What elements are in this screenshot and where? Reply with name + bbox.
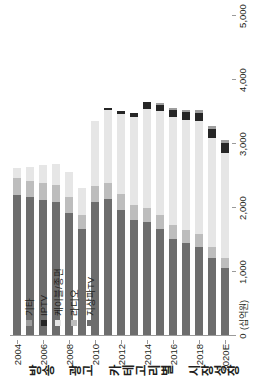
legend-swatch-icon <box>26 320 32 326</box>
bar-segment <box>26 167 34 180</box>
bar-row <box>156 103 164 335</box>
bar-segment <box>130 117 138 205</box>
legend-item: IPTV <box>38 268 49 326</box>
bar-row <box>182 110 190 335</box>
bar-segment <box>195 234 203 247</box>
value-axis: (십억원) 01,0002,0003,0004,0005,000 <box>232 16 262 336</box>
bar-segment <box>130 113 138 117</box>
legend-label: 라디오 <box>67 289 81 316</box>
year-tick-label: 2020E <box>220 344 231 371</box>
value-tick-label: 1,000 <box>237 260 248 284</box>
bar-row <box>13 168 21 335</box>
bar-segment <box>156 215 164 230</box>
year-tick-label: 2008 <box>63 344 74 365</box>
bar-segment <box>65 172 73 198</box>
bar-row <box>143 102 151 335</box>
bar-segment <box>39 165 47 183</box>
bar-segment <box>39 183 47 200</box>
legend-swatch-icon <box>55 320 61 326</box>
bar-row <box>117 111 125 335</box>
legend-label: 케이블/종편 <box>51 268 65 316</box>
value-tick <box>232 335 236 336</box>
legend-label: 지상파TV <box>83 277 97 316</box>
bar-segment <box>156 111 164 215</box>
bar-segment <box>195 121 203 234</box>
value-tick-label: 4,000 <box>237 68 248 92</box>
rotated-figure-wrapper: 방송 광고 카테고리별 시장성장 20042006200820102012201… <box>0 0 268 388</box>
bar-row <box>130 113 138 335</box>
value-tick-label: 0 <box>237 333 248 338</box>
bar-segment <box>169 239 177 335</box>
bar-segment <box>143 208 151 223</box>
legend-swatch-icon <box>41 320 47 326</box>
bar-segment <box>117 210 125 335</box>
year-tick-label: 2012 <box>116 344 127 365</box>
bar-segment <box>182 110 190 113</box>
bar-segment <box>156 103 164 105</box>
value-tick <box>232 143 236 144</box>
legend-label: IPTV <box>38 295 49 316</box>
bar-segment <box>91 121 99 186</box>
year-tick-label: 2014 <box>142 344 153 365</box>
bar-segment <box>182 120 190 230</box>
value-tick-label: 3,000 <box>237 132 248 156</box>
unit-label: (십억원) <box>237 300 250 330</box>
bar-segment <box>104 199 112 335</box>
year-axis: 200420062008201020122014201620182020E <box>10 340 232 388</box>
bar-segment <box>221 258 229 268</box>
bar-segment <box>208 258 216 335</box>
bar-segment <box>13 168 21 178</box>
bar-segment <box>208 138 216 247</box>
bar-segment <box>156 229 164 335</box>
bar-segment <box>221 140 229 143</box>
bar-segment <box>52 185 60 202</box>
bar-segment <box>182 230 190 243</box>
bar-segment <box>104 110 112 182</box>
bar-segment <box>208 126 216 129</box>
value-tick <box>232 79 236 80</box>
bar-segment <box>221 153 229 258</box>
bar-segment <box>65 197 73 213</box>
bar-segment <box>221 143 229 153</box>
bar-segment <box>26 181 34 198</box>
legend-item: 지상파TV <box>83 268 97 326</box>
year-tick-label: 2006 <box>37 344 48 365</box>
bar-segment <box>52 164 60 186</box>
bar-segment <box>13 178 21 195</box>
bar-segment <box>91 186 99 202</box>
year-tick-label: 2018 <box>194 344 205 365</box>
bar-segment <box>169 117 177 225</box>
bar-row <box>221 140 229 335</box>
bar-segment <box>208 247 216 259</box>
legend-swatch-icon <box>71 320 77 326</box>
year-tick-label: 2016 <box>168 344 179 365</box>
legend-item: 케이블/종편 <box>51 268 65 326</box>
year-tick-label: 2010 <box>89 344 100 365</box>
bar-row <box>195 110 203 335</box>
legend-item: 기타 <box>22 268 36 326</box>
chart-legend: 기타IPTV케이블/종편라디오지상파TV <box>22 268 97 326</box>
bar-segment <box>78 215 86 229</box>
bar-segment <box>117 114 125 194</box>
bar-row <box>104 108 112 335</box>
bar-segment <box>156 105 164 111</box>
year-tick-label: 2004 <box>11 344 22 365</box>
bar-segment <box>182 112 190 120</box>
bar-segment <box>169 225 177 239</box>
bar-segment <box>130 220 138 335</box>
bar-segment <box>117 194 125 209</box>
value-tick <box>232 15 236 16</box>
legend-item: 라디오 <box>67 268 81 326</box>
bar-segment <box>195 247 203 335</box>
bar-segment <box>13 195 21 335</box>
bar-segment <box>169 110 177 117</box>
bar-segment <box>195 113 203 121</box>
bar-segment <box>143 222 151 335</box>
chart-figure: 방송 광고 카테고리별 시장성장 20042006200820102012201… <box>0 0 268 388</box>
bar-segment <box>104 183 112 199</box>
bar-segment <box>208 129 216 138</box>
legend-label: 기타 <box>22 298 36 316</box>
bar-segment <box>143 102 151 109</box>
bar-row <box>208 126 216 335</box>
bar-segment <box>130 205 138 220</box>
